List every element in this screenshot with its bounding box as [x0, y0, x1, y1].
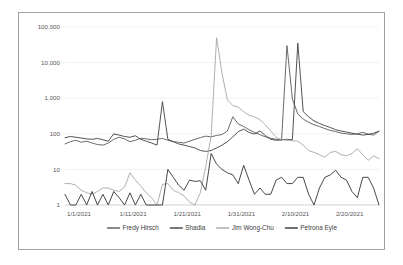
y-tick-label: 1,000 [45, 94, 61, 101]
legend-label: Fredy Hirsch [123, 224, 160, 232]
legend-label: Jim Wong-Chu [232, 224, 275, 232]
x-tick-label: 1/1/2021 [67, 210, 92, 217]
legend-label: Shadia [185, 224, 205, 231]
y-tick-label: 1 [57, 201, 61, 208]
x-tick-label: 1/11/2021 [120, 210, 148, 217]
x-tick-label: 2/20/2021 [336, 210, 364, 217]
x-tick-label: 1/21/2021 [174, 210, 202, 217]
y-tick-label: 100 [50, 130, 61, 137]
series-line-shadia [65, 43, 379, 151]
series-line-fredy-hirsch [65, 46, 379, 146]
y-tick-label: 10,000 [41, 59, 60, 66]
series-line-petrona-eyle [65, 153, 379, 205]
line-chart-plot: 1101001,00010,000100,000 1/1/20211/11/20… [19, 13, 386, 251]
chart-container: 1101001,00010,000100,000 1/1/20211/11/20… [18, 12, 385, 250]
chart-legend: Fredy HirschShadiaJim Wong-ChuPetrona Ey… [107, 224, 337, 232]
gridlines-group [65, 27, 379, 205]
x-tick-label: 1/31/2021 [228, 210, 256, 217]
x-tick-label: 2/10/2021 [282, 210, 310, 217]
x-axis-labels: 1/1/20211/11/20211/21/20211/31/20212/10/… [67, 210, 364, 217]
y-tick-label: 100,000 [38, 23, 61, 30]
y-tick-label: 10 [53, 166, 60, 173]
y-axis-labels: 1101001,00010,000100,000 [38, 23, 61, 208]
legend-label: Petrona Eyle [300, 224, 337, 232]
